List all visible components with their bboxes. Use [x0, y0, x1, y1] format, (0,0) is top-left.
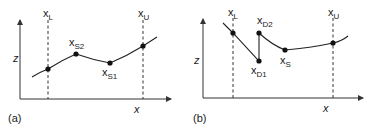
caption-a: (a): [8, 112, 21, 124]
point-xl-b: [230, 30, 235, 35]
point-xs2: [73, 51, 78, 56]
label-xl-b: xL: [228, 6, 239, 21]
label-xs: xS: [280, 54, 291, 69]
point-xs1: [107, 60, 112, 65]
objective-curve-a: [32, 37, 157, 77]
x-axis-label-a: x: [133, 103, 140, 115]
figure-canvas: z x xL xU xS2 xS1 (a) z x xL xU xD2 xD1 …: [0, 0, 367, 133]
objective-curve-b: [223, 23, 348, 61]
point-xs: [282, 47, 287, 52]
point-xd2: [256, 30, 261, 35]
caption-b: (b): [193, 112, 206, 124]
label-xs1: xS1: [102, 66, 118, 81]
panel-a: z x xL xU xS2 xS1 (a): [8, 7, 171, 124]
label-xu-a: xU: [138, 7, 150, 22]
point-xu-b: [330, 40, 335, 45]
z-axis-label-b: z: [193, 54, 200, 66]
point-xl-a: [45, 66, 50, 71]
label-xs2: xS2: [69, 36, 85, 51]
point-xu-a: [140, 43, 145, 48]
x-axis-label-b: x: [322, 102, 329, 114]
panel-b: z x xL xU xD2 xD1 xS (b): [193, 6, 363, 124]
z-axis-label-a: z: [12, 52, 19, 64]
label-xd2: xD2: [257, 14, 273, 29]
label-xu-b: xU: [328, 6, 340, 21]
label-xl-a: xL: [43, 7, 54, 22]
point-xd1: [256, 58, 261, 63]
label-xd1: xD1: [251, 64, 267, 79]
